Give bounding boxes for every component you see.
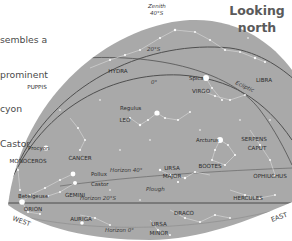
constellation-label: VIRGO bbox=[192, 88, 211, 94]
star-label: Betelgeuse bbox=[18, 193, 49, 200]
star-castor bbox=[73, 181, 77, 185]
constellation-label: DRACO bbox=[174, 210, 195, 216]
constellation-label: GEMINI bbox=[65, 192, 86, 198]
title-line-2: north bbox=[222, 19, 292, 36]
constellation-label: BOOTES bbox=[198, 163, 221, 169]
caption-text: sembles a prominent cyon Castor bbox=[0, 11, 48, 161]
star-label: Castor bbox=[91, 181, 109, 187]
constellation-label: MAJOR bbox=[163, 173, 182, 180]
caption-line: prominent bbox=[0, 69, 48, 81]
constellation-label: HYDRA bbox=[108, 68, 128, 74]
dec0-label: 0° bbox=[151, 79, 157, 85]
zenith-alt-label: 40°S bbox=[150, 10, 164, 16]
constellation-label: AURIGA bbox=[70, 216, 92, 222]
constellation-label: URSA bbox=[164, 165, 180, 171]
zenith-label: Zenith bbox=[147, 3, 166, 9]
constellation-label: ORION bbox=[24, 206, 43, 212]
title-line-1: Looking bbox=[222, 2, 292, 19]
star-label: Pollux bbox=[91, 171, 108, 177]
constellation-label: LIBRA bbox=[256, 77, 272, 83]
constellation-label: CANCER bbox=[68, 155, 91, 161]
chart-title: Looking north bbox=[222, 2, 292, 36]
star-label: Arcturus bbox=[196, 137, 219, 143]
caption-line: sembles a bbox=[0, 34, 48, 46]
star-label: Spica bbox=[189, 75, 204, 82]
caption-line: cyon bbox=[0, 103, 48, 115]
star-spica bbox=[203, 75, 209, 81]
horizon0-label: Horizon 0° bbox=[105, 227, 134, 233]
horizon40-label: Horizon 40° bbox=[110, 167, 143, 173]
star-label: Regulus bbox=[120, 105, 142, 112]
constellation-label: MINOR bbox=[150, 230, 169, 236]
caption-line: Castor bbox=[0, 138, 48, 150]
star-pollux bbox=[71, 172, 76, 177]
plough-label: Plough bbox=[146, 186, 165, 193]
constellation-label: HERCULES bbox=[233, 195, 263, 201]
dec20-label: 20°S bbox=[147, 46, 161, 52]
constellation-label: SERPENS bbox=[241, 136, 267, 142]
constellation-label: LEO bbox=[119, 117, 131, 123]
horizon20-label: Horizon 20°S bbox=[80, 195, 117, 201]
star-betelgeuse bbox=[19, 199, 25, 205]
star-regulus bbox=[154, 110, 159, 115]
constellation-label: URSA bbox=[151, 221, 167, 227]
constellation-label: OPHIUCHUS bbox=[253, 173, 287, 179]
constellation-label: CAPUT bbox=[248, 145, 267, 151]
east-label: EAST bbox=[270, 211, 288, 224]
